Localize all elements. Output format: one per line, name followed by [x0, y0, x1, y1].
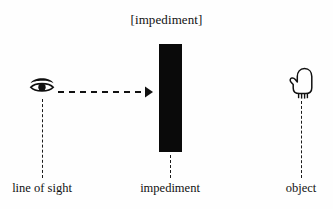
page-title: [impediment]	[0, 12, 333, 28]
leader-line-sight	[42, 99, 43, 178]
eye-icon	[29, 74, 55, 96]
impediment-bar	[159, 44, 182, 152]
label-line-of-sight: line of sight	[0, 181, 84, 196]
hand-icon	[288, 67, 315, 100]
label-object: object	[259, 181, 333, 196]
leader-line-impediment	[170, 155, 171, 178]
label-impediment: impediment	[128, 181, 212, 196]
leader-line-object	[301, 101, 302, 178]
impediment-diagram: [impediment]	[0, 0, 333, 209]
sight-line-arrow	[58, 84, 156, 100]
